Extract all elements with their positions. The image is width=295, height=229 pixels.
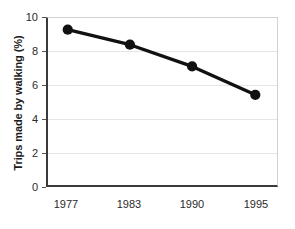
x-axis-tick-label: 1990 [162,198,222,210]
data-point-marker [125,40,135,50]
x-axis-tick-label: 1995 [226,198,286,210]
data-point-marker [63,25,73,35]
x-axis-tick-label: 1977 [36,198,96,210]
data-series-line [48,18,277,185]
y-axis-tick-label: 6 [8,80,38,91]
y-axis-tick-mark [42,187,46,188]
data-point-marker [187,61,197,71]
data-point-marker [250,90,260,100]
y-axis-tick-label: 2 [8,148,38,159]
chart-figure: Trips made by walking (%) 0 2 4 6 8 10 1… [0,0,295,229]
y-axis-tick-label: 8 [8,46,38,57]
y-axis-tick-label: 0 [8,182,38,193]
y-axis-title: Trips made by walking (%) [10,8,26,198]
plot-area [46,17,278,187]
y-axis-tick-label: 4 [8,114,38,125]
y-axis-tick-label: 10 [8,12,38,23]
x-axis-tick-label: 1983 [99,198,159,210]
